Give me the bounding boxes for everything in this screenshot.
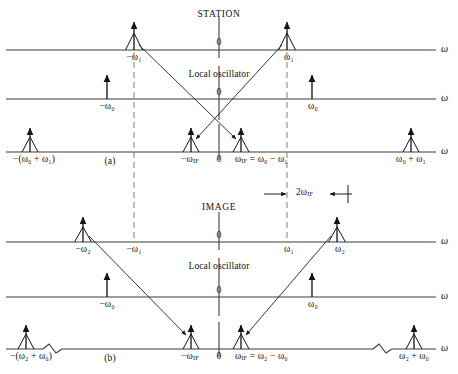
panel-b-tick-pos-omega1: ω₁: [284, 245, 294, 255]
panel-b-label-neg-omega-if: −ωIF: [181, 352, 199, 362]
panel-a-row-input-origin-label: 0: [217, 38, 222, 48]
panel-a-impulse-pos-sum: [403, 128, 419, 152]
panel-a-label-pos-sum: ω₀ + ω₁: [396, 155, 426, 165]
panel-a-label-neg-omega-if: −ωIF: [181, 155, 199, 165]
panel-a-impulse-neg-sum: [22, 128, 38, 152]
spectrum-diagram-graphics: [0, 0, 458, 374]
panel-b-row-input-axis-label: ω: [441, 236, 448, 246]
panel-b-label-neg-sum: −(ω₂ + ω₀): [10, 352, 52, 362]
panel-b-impulse-neg-omega-if: [183, 325, 199, 349]
panel-b-lo-caption: Local oscillator: [189, 262, 250, 272]
panel-b-impulse-neg-omega2: [75, 217, 92, 242]
panel-b-label-pos-sum: ω₂ + ω₀: [399, 352, 429, 362]
panel-b-title: IMAGE: [202, 203, 236, 213]
panel-a-label-pos-omega1: ω₁: [284, 53, 294, 63]
panel-b-row-input-origin-label: 0: [217, 231, 222, 241]
panel-b-row-lo-axis-label: ω: [441, 291, 448, 301]
panel-b-impulse-pos-sum: [406, 325, 422, 349]
panel-b-label-neg-omega0: −ω₀: [99, 300, 114, 310]
panel-a-row-output-origin-label: 0: [217, 155, 222, 165]
panel-b-row-output-origin-label: 0: [217, 352, 222, 362]
panel-a-impulse-neg-omega-if: [183, 128, 199, 152]
panel-a-impulse-pos-omega-if: [233, 128, 249, 152]
panel-b-label-neg-omega2: −ω₂: [75, 245, 90, 255]
panel-a-translation-arrows: [139, 45, 282, 139]
panel-b-impulse-pos-omega2: [329, 217, 346, 242]
figure-canvas: STATION 0 −ω₁ ω₁ ω Local oscillator 0 −ω…: [0, 0, 458, 374]
panel-b-row-lo-origin-label: 0: [217, 286, 222, 296]
panel-a-label-pos-omega0: ω₀: [308, 102, 318, 112]
panel-b-impulse-neg-sum: [18, 325, 34, 349]
panel-b-label-pos-omega2: ω₂: [335, 245, 345, 255]
panel-b-label-pos-omega0: ω₀: [308, 300, 318, 310]
panel-b-impulse-pos-omega-if: [233, 325, 249, 349]
panel-a-label-neg-omega1: −ω₁: [126, 53, 141, 63]
panel-a-row-lo-axis-label: ω: [441, 93, 448, 103]
panel-b-label-pos-omega-if: ωIF = ω₂ − ω₀: [235, 352, 288, 362]
panel-a-row-output-axis-label: ω: [441, 146, 448, 156]
panel-a-label-neg-sum: −(ω₀ + ω₁): [13, 155, 55, 165]
panel-b-tick-neg-omega1: −ω₁: [126, 245, 141, 255]
panel-a-row-lo-origin-label: 0: [217, 88, 222, 98]
panel-a-lo-caption: Local oscillator: [189, 70, 250, 80]
panel-a-label-neg-omega0: −ω₀: [99, 102, 114, 112]
panel-a-title: STATION: [197, 10, 240, 20]
panel-b-row-output-axis-label: ω: [441, 343, 448, 353]
panel-b-label: (b): [104, 354, 115, 364]
panel-a-row-input-axis-label: ω: [441, 44, 448, 54]
panel-a-label: (a): [105, 157, 116, 167]
panel-b-translation-arrows: [89, 236, 331, 335]
panel-a-label-pos-omega-if: ωIF = ω₀ − ω₁: [235, 155, 288, 165]
bandwidth-annotation-label: 2ωIF: [296, 188, 313, 198]
